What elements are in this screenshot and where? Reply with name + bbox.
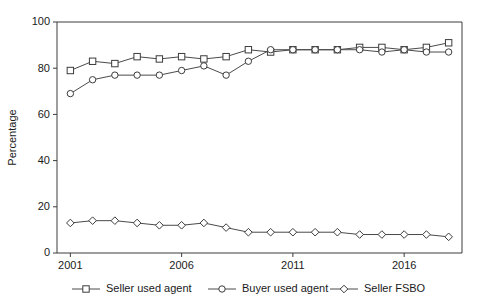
chart-container: 0204060801002001200620112016PercentageSe… [0,0,483,306]
data-point-2005 [156,72,162,78]
series-line [70,50,448,94]
data-point-2013 [334,228,342,236]
data-point-2003 [112,60,118,66]
legend-label: Seller used agent [106,282,192,294]
data-point-2007 [201,56,207,62]
data-point-2015 [378,231,386,239]
legend-label: Seller FSBO [364,282,426,294]
data-point-2013 [334,47,340,53]
data-point-2015 [379,49,385,55]
data-point-2005 [156,56,162,62]
data-point-2005 [156,221,164,229]
data-point-2018 [445,233,453,241]
y-tick-label-20: 20 [38,200,50,212]
data-point-2014 [356,231,364,239]
series-seller-fsbo [67,217,453,241]
y-axis-title: Percentage [6,109,18,165]
data-point-2012 [312,47,318,53]
data-point-2011 [290,47,296,53]
series-seller-used-agent [67,40,452,74]
data-point-2006 [178,221,186,229]
data-point-2001 [67,67,73,73]
data-point-2002 [89,217,97,225]
data-point-2014 [356,47,362,53]
data-point-2008 [222,224,230,232]
y-tick-label-80: 80 [38,62,50,74]
data-point-2017 [423,49,429,55]
data-point-2011 [289,228,297,236]
data-point-2009 [245,47,251,53]
data-point-2008 [223,72,229,78]
y-tick-label-60: 60 [38,108,50,120]
data-point-2002 [89,58,95,64]
legend-marker-circle [219,286,225,292]
data-point-2002 [89,77,95,83]
series-line [70,43,448,71]
data-point-2007 [200,219,208,227]
y-tick-label-0: 0 [44,246,50,258]
legend-marker-diamond [340,285,348,293]
legend-label: Buyer used agent [242,282,328,294]
data-point-2003 [112,72,118,78]
x-tick-label-2001: 2001 [58,259,82,271]
data-point-2004 [134,53,140,59]
x-tick-label-2006: 2006 [169,259,193,271]
data-point-2006 [178,53,184,59]
data-point-2006 [178,67,184,73]
data-point-2010 [267,47,273,53]
data-point-2018 [445,40,451,46]
data-point-2003 [111,217,119,225]
data-point-2001 [67,90,73,96]
data-point-2017 [423,231,431,239]
series-buyer-used-agent [67,47,452,97]
line-chart: 0204060801002001200620112016PercentageSe… [0,0,483,306]
legend-marker-square [83,286,89,292]
data-point-2004 [133,219,141,227]
data-point-2012 [311,228,319,236]
data-point-2016 [401,47,407,53]
legend-item-buyer-used-agent: Buyer used agent [208,282,328,294]
y-tick-label-100: 100 [32,15,50,27]
data-point-2004 [134,72,140,78]
data-point-2001 [67,219,75,227]
data-point-2018 [445,49,451,55]
legend-item-seller-fsbo: Seller FSBO [330,282,426,294]
data-point-2009 [245,228,253,236]
data-point-2016 [400,231,408,239]
data-point-2009 [245,58,251,64]
x-tick-label-2011: 2011 [281,259,305,271]
data-point-2007 [201,63,207,69]
data-point-2008 [223,53,229,59]
series-line [70,221,448,237]
plot-frame [57,22,462,253]
data-point-2010 [267,228,275,236]
legend-item-seller-used-agent: Seller used agent [72,282,192,294]
x-tick-label-2016: 2016 [392,259,416,271]
y-tick-label-40: 40 [38,154,50,166]
